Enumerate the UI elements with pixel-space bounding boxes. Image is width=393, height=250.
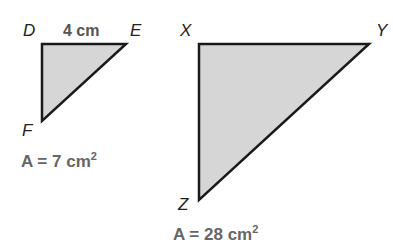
area-large: A = 28 cm2 [173, 226, 258, 243]
vertex-z: Z [178, 196, 188, 213]
vertex-f: F [22, 122, 32, 139]
area-small-exponent: 2 [91, 150, 97, 162]
side-de-length: 4 cm [63, 23, 99, 39]
vertex-y: Y [376, 22, 387, 39]
area-large-text: A = 28 cm [173, 225, 252, 244]
area-small-text: A = 7 cm [21, 152, 91, 171]
vertex-d: D [23, 22, 35, 39]
area-small: A = 7 cm2 [21, 153, 97, 170]
area-large-exponent: 2 [252, 223, 258, 235]
triangles-figure [0, 0, 393, 250]
vertex-e: E [130, 22, 141, 39]
triangle-xyz [199, 44, 369, 200]
triangle-def [42, 44, 126, 121]
vertex-x: X [180, 22, 191, 39]
